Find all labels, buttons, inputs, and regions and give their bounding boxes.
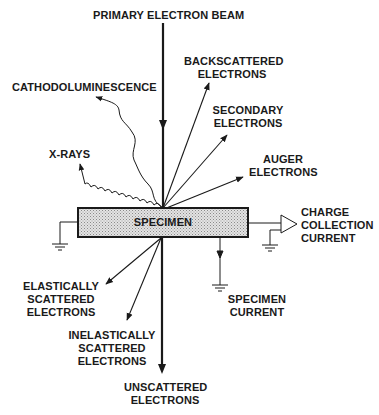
inelastic-arrow bbox=[127, 238, 161, 320]
charge-collection-line3: CURRENT bbox=[301, 232, 374, 245]
secondary-label-line2: ELECTRONS bbox=[212, 117, 284, 130]
elastic-label-line3: ELECTRONS bbox=[22, 306, 100, 319]
unscattered-label-line1: UNSCATTERED bbox=[124, 381, 206, 394]
specimen-current-label: SPECIMEN CURRENT bbox=[226, 293, 288, 319]
specimen-label: SPECIMEN bbox=[126, 216, 200, 229]
charge-collection-line1: CHARGE bbox=[301, 206, 374, 219]
charge-collection-line2: COLLECTION bbox=[301, 219, 374, 232]
inelastic-label-line3: ELECTRONS bbox=[68, 355, 156, 368]
elastic-label-line2: SCATTERED bbox=[22, 293, 100, 306]
secondary-arrow bbox=[163, 135, 227, 208]
specimen-current-line2: CURRENT bbox=[226, 306, 288, 319]
auger-label: AUGER ELECTRONS bbox=[249, 153, 317, 179]
secondary-label: SECONDARY ELECTRONS bbox=[212, 104, 284, 130]
backscattered-label-line2: ELECTRONS bbox=[184, 68, 280, 81]
elastic-arrow bbox=[106, 238, 161, 284]
backscattered-arrow bbox=[163, 83, 209, 208]
inelastic-label-line2: SCATTERED bbox=[68, 342, 156, 355]
unscattered-arrow bbox=[158, 237, 166, 374]
left-ground-icon bbox=[52, 222, 78, 250]
specimen-current-ground-icon bbox=[212, 237, 228, 291]
elastic-label: ELASTICALLY SCATTERED ELECTRONS bbox=[22, 280, 100, 319]
primary-beam-arrow bbox=[159, 23, 167, 208]
xrays-label: X-RAYS bbox=[49, 148, 90, 161]
primary-beam-label: PRIMARY ELECTRON BEAM bbox=[93, 9, 233, 22]
auger-label-line1: AUGER bbox=[249, 153, 317, 166]
unscattered-label: UNSCATTERED ELECTRONS bbox=[124, 381, 206, 407]
unscattered-label-line2: ELECTRONS bbox=[124, 394, 206, 407]
cathodoluminescence-label: CATHODOLUMINESCENCE bbox=[12, 81, 157, 94]
backscattered-label: BACKSCATTERED ELECTRONS bbox=[184, 55, 280, 81]
specimen-current-line1: SPECIMEN bbox=[226, 293, 288, 306]
inelastic-label: INELASTICALLY SCATTERED ELECTRONS bbox=[68, 329, 156, 368]
inelastic-label-line1: INELASTICALLY bbox=[68, 329, 156, 342]
backscattered-label-line1: BACKSCATTERED bbox=[184, 55, 280, 68]
secondary-label-line1: SECONDARY bbox=[212, 104, 284, 117]
auger-label-line2: ELECTRONS bbox=[249, 166, 317, 179]
amplifier-icon bbox=[248, 215, 297, 251]
charge-collection-label: CHARGE COLLECTION CURRENT bbox=[301, 206, 374, 245]
elastic-label-line1: ELASTICALLY bbox=[22, 280, 100, 293]
